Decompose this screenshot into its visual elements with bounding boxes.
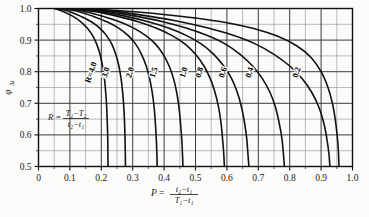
x-tick-label: 0.5 — [190, 173, 202, 183]
x-axis-numerator: t₂−t₁ — [176, 184, 192, 194]
x-axis-denominator: T₁−t₁ — [175, 195, 194, 205]
chart-figure: R=4.0R=4.03.03.02.02.01.51.51.01.00.80.8… — [0, 0, 369, 217]
x-axis-symbol: P — [150, 188, 157, 198]
y-tick-label: 0.9 — [20, 36, 32, 46]
x-tick-label: 0.1 — [64, 173, 76, 183]
x-tick-label: 0 — [36, 173, 41, 183]
x-axis-equals: = — [159, 188, 164, 198]
x-tick-label: 0.9 — [315, 173, 327, 183]
y-tick-label: 0.6 — [20, 130, 32, 140]
y-tick-label: 0.7 — [20, 99, 32, 109]
y-tick-label: 0.5 — [20, 162, 32, 172]
x-tick-label: 0.6 — [221, 173, 233, 183]
y-axis-symbol: φ — [3, 89, 13, 94]
x-tick-label: 0.7 — [252, 173, 264, 183]
r-numerator: T₁−T₂ — [65, 108, 86, 118]
y-axis-subscript: Δt — [9, 80, 15, 86]
r-equals: = — [56, 112, 61, 122]
x-tick-label: 1.0 — [347, 173, 359, 183]
r-denominator: t₂−t₁ — [68, 119, 84, 129]
lmtd-correction-chart: R=4.0R=4.03.03.02.02.01.51.51.01.00.80.8… — [0, 0, 369, 217]
x-tick-label: 0.2 — [95, 173, 107, 183]
y-tick-label: 1.0 — [20, 4, 32, 14]
x-tick-label: 0.8 — [284, 173, 296, 183]
x-tick-label: 0.3 — [127, 173, 139, 183]
x-tick-label: 0.4 — [158, 173, 170, 183]
y-tick-label: 0.8 — [20, 67, 32, 77]
r-symbol: R — [47, 112, 54, 122]
